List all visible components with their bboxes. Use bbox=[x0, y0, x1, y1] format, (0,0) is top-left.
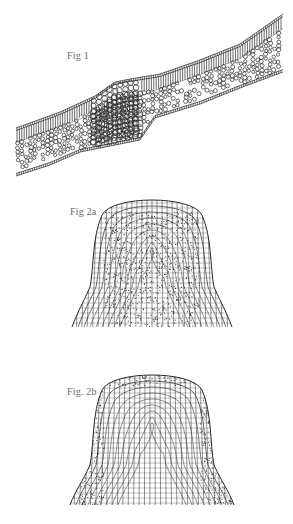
botanical-plate: Fig 1 Fig 2a Fig. 2b bbox=[0, 0, 293, 524]
fig2b-apex-drawing bbox=[0, 0, 293, 524]
